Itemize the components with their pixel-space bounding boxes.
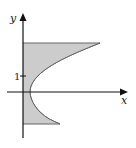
y-tick-label: 1	[14, 71, 20, 82]
shaded-region-fill	[23, 43, 100, 124]
x-axis-label: x	[121, 94, 128, 107]
y-axis-arrow-icon	[20, 13, 27, 21]
diagram-canvas: y x 1	[0, 0, 136, 148]
y-axis-label: y	[9, 12, 17, 25]
